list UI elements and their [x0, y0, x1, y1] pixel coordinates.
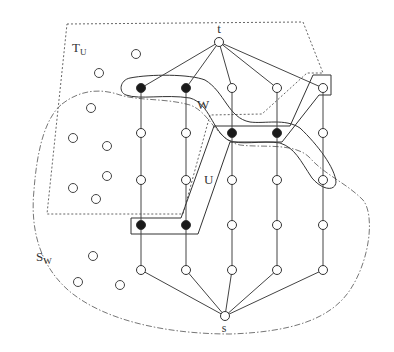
- vertex: [319, 266, 328, 275]
- edge-t-col4: [219, 42, 323, 88]
- vertex: [273, 176, 282, 185]
- isolated-vertex: [103, 172, 112, 181]
- vertex: [137, 266, 146, 275]
- vertex: [137, 129, 146, 138]
- region-t-u: [47, 22, 323, 214]
- isolated-vertex: [69, 184, 78, 193]
- edge-col2-s: [225, 270, 232, 316]
- vertex: [319, 176, 328, 185]
- filled-vertex: [137, 84, 146, 93]
- region-s-w: [33, 91, 369, 334]
- vertex: [228, 221, 237, 230]
- nodes-layer: [69, 38, 328, 321]
- label-u: U: [204, 172, 214, 187]
- isolated-vertex: [132, 50, 141, 59]
- label-s-w-subscript: W: [43, 256, 52, 266]
- isolated-vertex: [95, 69, 104, 78]
- label-t: t: [217, 21, 221, 36]
- filled-vertex: [182, 84, 191, 93]
- filled-vertex: [228, 129, 237, 138]
- label-t-u: TU: [72, 40, 87, 57]
- vertex: [228, 84, 237, 93]
- vertex: [319, 129, 328, 138]
- edge-t-col3: [219, 42, 277, 88]
- edge-col0-s: [141, 270, 225, 316]
- edge-t-col2: [219, 42, 232, 88]
- isolated-vertex: [116, 281, 125, 290]
- terminal-t: [215, 38, 224, 47]
- vertex: [137, 176, 146, 185]
- label-t-u-subscript: U: [80, 47, 87, 57]
- label-w: W: [197, 97, 210, 112]
- isolated-vertex: [92, 195, 101, 204]
- vertex: [319, 221, 328, 230]
- vertex: [273, 266, 282, 275]
- vertex: [228, 176, 237, 185]
- diagram-svg: t s W U TU SW: [0, 0, 394, 352]
- label-s-w-main: S: [36, 249, 43, 264]
- region-u: [131, 75, 331, 234]
- vertex: [273, 84, 282, 93]
- edge-col4-s: [225, 270, 323, 316]
- vertex: [228, 266, 237, 275]
- isolated-vertex: [74, 278, 83, 287]
- label-t-u-main: T: [72, 40, 80, 55]
- edge-col3-s: [225, 270, 277, 316]
- vertex: [319, 84, 328, 93]
- vertex: [182, 176, 191, 185]
- filled-vertex: [182, 221, 191, 230]
- vertex: [182, 129, 191, 138]
- isolated-vertex: [103, 142, 112, 151]
- edge-t-col1: [186, 42, 219, 88]
- label-s-w: SW: [36, 249, 52, 266]
- graph-diagram: t s W U TU SW: [0, 0, 394, 352]
- vertex: [182, 266, 191, 275]
- isolated-vertex: [87, 104, 96, 113]
- filled-vertex: [273, 129, 282, 138]
- edge-col1-s: [186, 270, 225, 316]
- vertex: [273, 221, 282, 230]
- filled-vertex: [137, 221, 146, 230]
- label-s: s: [222, 321, 227, 335]
- isolated-vertex: [89, 252, 98, 261]
- terminal-s: [221, 312, 230, 321]
- labels-layer: t s W U TU SW: [36, 21, 227, 335]
- isolated-vertex: [69, 134, 78, 143]
